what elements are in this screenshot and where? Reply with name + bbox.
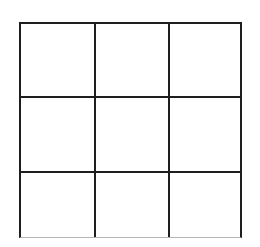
grid-board: [19, 22, 242, 238]
grid-cell-r1c3: [170, 24, 240, 98]
grid-cell-r2c3: [170, 98, 240, 173]
grid-cell-r2c2: [96, 98, 170, 173]
page-background: [0, 0, 260, 247]
grid-cell-r3c1: [21, 173, 96, 237]
grid-cell-r1c1: [21, 24, 96, 98]
grid-cell-r2c1: [21, 98, 96, 173]
grid-cell-r1c2: [96, 24, 170, 98]
grid-cell-r3c3: [170, 173, 240, 237]
grid-cell-r3c2: [96, 173, 170, 237]
